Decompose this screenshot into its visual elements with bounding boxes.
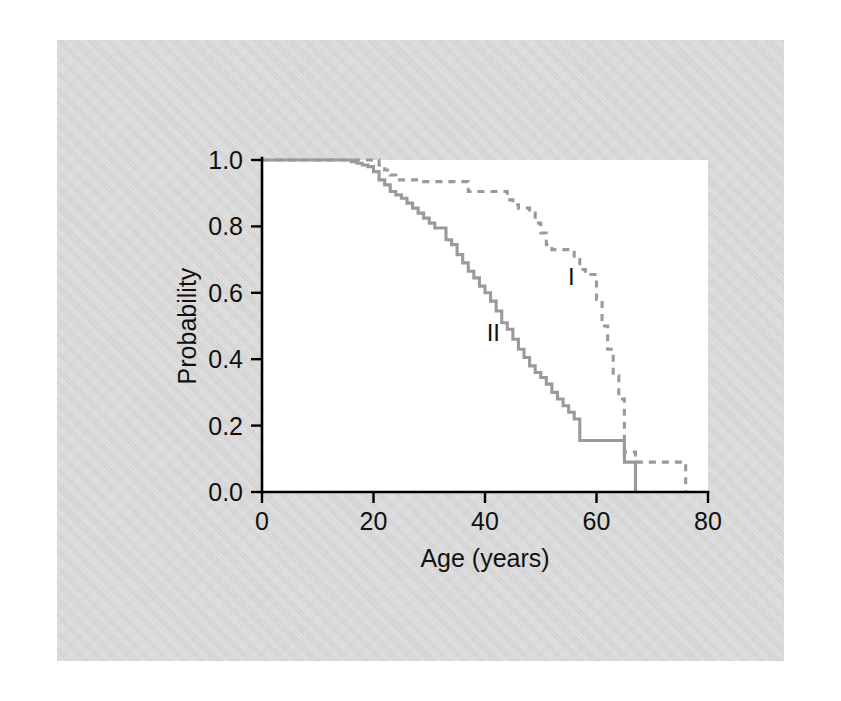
curve-series-II [262,160,636,492]
y-tick-label: 0.2 [208,412,243,440]
y-tick-label: 0.4 [208,345,243,373]
x-tick-label: 0 [255,507,269,535]
y-tick-label: 1.0 [208,146,243,174]
x-tick-label: 60 [583,507,611,535]
y-tick-label: 0.8 [208,212,243,240]
y-axis-title: Probability [173,267,201,384]
series-annotation-II: II [487,319,500,346]
survival-curve-chart: 0.00.20.40.60.81.0020406080Age (years)Pr… [0,0,841,701]
curve-series-I [262,160,686,492]
x-tick-label: 20 [360,507,388,535]
x-tick-label: 80 [694,507,722,535]
x-tick-label: 40 [471,507,499,535]
y-tick-label: 0.0 [208,478,243,506]
series-annotation-I: I [568,263,575,290]
y-tick-label: 0.6 [208,279,243,307]
figure-root: 0.00.20.40.60.81.0020406080Age (years)Pr… [0,0,841,701]
x-axis-title: Age (years) [420,544,549,572]
